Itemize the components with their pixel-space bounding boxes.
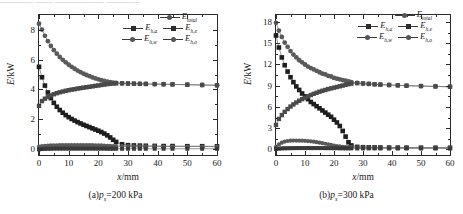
y-tick	[39, 45, 41, 46]
y-tick	[39, 119, 43, 120]
y-tick	[39, 60, 43, 61]
x-tick	[305, 15, 306, 19]
x-tick	[54, 15, 55, 17]
legend-a: EtotalEh,aEh,eEh,wEh,o	[118, 12, 197, 45]
legend-marker-icon	[395, 12, 415, 19]
data-point	[138, 82, 142, 86]
legend-e-h-w[interactable]: Eh,w	[122, 33, 157, 47]
panel-a: E/kW 010203040506002468 x/mm (a)ps=200 k…	[0, 0, 231, 214]
data-point	[170, 82, 174, 86]
data-point	[373, 146, 377, 150]
y-tick	[39, 89, 43, 90]
series-e-h-e	[37, 81, 219, 108]
data-point	[338, 124, 343, 129]
y-tick	[215, 75, 217, 76]
y-tick	[448, 33, 450, 34]
data-point	[405, 146, 409, 150]
y-tick-label: 12	[263, 60, 272, 69]
caption-value-a: =200 kPa	[106, 190, 142, 200]
y-tick	[446, 43, 450, 44]
data-point	[37, 65, 42, 70]
x-tick	[84, 15, 85, 17]
x-tick-label: 10	[301, 159, 310, 168]
y-tick	[39, 134, 41, 135]
y-tick	[446, 107, 450, 108]
y-tick	[448, 75, 450, 76]
y-tick	[276, 107, 280, 108]
data-point	[343, 134, 348, 139]
data-point	[396, 83, 400, 87]
x-tick-label: 40	[153, 159, 162, 168]
x-tick	[39, 15, 40, 19]
data-point	[378, 146, 382, 150]
data-point	[291, 80, 296, 85]
y-tick	[276, 75, 278, 76]
y-tick	[446, 86, 450, 87]
y-tick	[213, 89, 217, 90]
x-tick-label: 0	[37, 159, 42, 168]
caption-b: (b)ps=300 kPa	[231, 190, 462, 202]
caption-index-a: (a)	[88, 190, 99, 200]
data-point	[46, 39, 51, 44]
x-tick	[276, 151, 277, 155]
y-tick	[276, 33, 278, 34]
y-tick	[276, 22, 280, 23]
y-tick	[276, 149, 280, 150]
data-point	[132, 147, 136, 151]
y-tick	[448, 139, 450, 140]
legend-marker-icon	[123, 25, 143, 32]
x-tick-label: 20	[330, 159, 339, 168]
x-tick-label: 50	[183, 159, 192, 168]
y-tick	[215, 134, 217, 135]
data-point	[126, 81, 130, 85]
data-point	[355, 81, 359, 85]
data-point	[274, 123, 278, 127]
x-tick	[320, 15, 321, 17]
data-point	[200, 147, 204, 151]
y-tick	[215, 104, 217, 105]
y-tick-label: 18	[263, 18, 272, 27]
x-tick	[363, 151, 364, 155]
y-tick	[446, 149, 450, 150]
legend-marker-icon	[357, 34, 377, 41]
x-tick-label: 30	[359, 159, 368, 168]
legend-e-h-o[interactable]: Eh,o	[163, 33, 197, 47]
x-axis-title-a: x/mm	[38, 172, 218, 182]
figure-root: ———— —— —————— ———— E/kW 010203040506002…	[0, 0, 463, 214]
data-point	[279, 35, 284, 40]
data-point	[171, 147, 175, 151]
data-point	[361, 146, 365, 150]
x-tick	[407, 153, 408, 155]
x-tick	[436, 153, 437, 155]
data-point	[280, 55, 285, 60]
data-point	[114, 140, 119, 145]
series-line	[39, 67, 217, 147]
y-tick	[39, 75, 41, 76]
x-tick-label: 40	[388, 159, 397, 168]
y-axis-symbol-b: E	[243, 79, 253, 85]
x-axis-title-b: x/mm	[275, 172, 451, 182]
y-tick	[276, 139, 278, 140]
legend-row-3: Eh,wEh,o	[118, 34, 197, 45]
data-point	[120, 81, 124, 85]
legend-e-h-o[interactable]: Eh,o	[398, 31, 432, 45]
x-tick	[54, 153, 55, 155]
x-tick	[113, 153, 114, 155]
y-tick-label: 15	[263, 39, 272, 48]
data-point	[114, 81, 118, 85]
legend-e-h-w[interactable]: Eh,w	[357, 31, 392, 45]
data-point	[161, 82, 165, 86]
legend-label: Eh,w	[144, 33, 157, 47]
x-tick	[450, 151, 451, 155]
y-tick	[448, 54, 450, 55]
data-point	[277, 45, 282, 50]
data-point	[367, 146, 371, 150]
x-tick	[217, 15, 218, 19]
x-tick-label: 60	[213, 159, 222, 168]
y-tick	[213, 30, 217, 31]
data-point	[282, 63, 287, 68]
data-point	[396, 146, 400, 150]
data-point	[288, 75, 293, 80]
y-tick-label: 0	[268, 145, 273, 154]
data-point	[43, 83, 48, 88]
